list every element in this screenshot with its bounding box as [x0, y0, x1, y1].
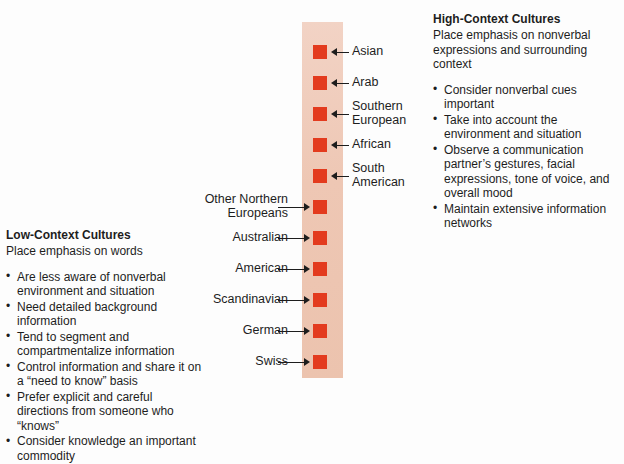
high-context-bullet-item: Observe a communication partner’s gestur…: [433, 143, 619, 201]
low-context-bullet-item: Consider knowledge an important commodit…: [6, 434, 206, 463]
low-context-bullet-list: Are less aware of nonverbal environment …: [6, 270, 206, 464]
culture-label: African: [352, 137, 391, 151]
high-context-title: High-Context Cultures: [433, 12, 619, 27]
culture-marker: [313, 138, 327, 152]
high-context-block: High-Context Cultures Place emphasis on …: [433, 12, 619, 232]
culture-marker: [313, 355, 327, 369]
culture-label: Other Northern Europeans: [205, 192, 288, 220]
culture-label: Australian: [232, 230, 288, 244]
culture-marker: [313, 107, 327, 121]
culture-label: Asian: [352, 44, 383, 58]
low-context-bullet-item: Are less aware of nonverbal environment …: [6, 270, 206, 299]
culture-label: Arab: [352, 75, 378, 89]
culture-marker: [313, 45, 327, 59]
culture-label: Swiss: [255, 354, 288, 368]
culture-marker: [313, 231, 327, 245]
low-context-title: Low-Context Cultures: [6, 228, 206, 243]
high-context-bullet-item: Consider nonverbal cues important: [433, 83, 619, 112]
culture-label: Scandinavian: [213, 292, 288, 306]
high-context-bullet-item: Take into account the environment and si…: [433, 113, 619, 142]
culture-marker: [313, 200, 327, 214]
low-context-bullet-item: Tend to segment and compartmentalize inf…: [6, 330, 206, 359]
culture-marker: [313, 324, 327, 338]
high-context-bullet-list: Consider nonverbal cues importantTake in…: [433, 83, 619, 231]
culture-label: South American: [352, 161, 405, 189]
high-context-bullet-item: Maintain extensive information networks: [433, 202, 619, 231]
low-context-bullet-item: Control information and share it on a “n…: [6, 360, 206, 389]
low-context-subtitle: Place emphasis on words: [6, 244, 206, 259]
low-context-bullet-item: Prefer explicit and careful directions f…: [6, 390, 206, 434]
culture-marker: [313, 169, 327, 183]
culture-label: American: [235, 261, 288, 275]
low-context-bullet-item: Need detailed background information: [6, 300, 206, 329]
culture-label: German: [243, 323, 288, 337]
low-context-block: Low-Context Cultures Place emphasis on w…: [6, 228, 206, 464]
culture-marker: [313, 293, 327, 307]
culture-label: Southern European: [352, 99, 406, 127]
culture-marker: [313, 76, 327, 90]
high-context-subtitle: Place emphasis on nonverbal expressions …: [433, 28, 619, 72]
culture-marker: [313, 262, 327, 276]
